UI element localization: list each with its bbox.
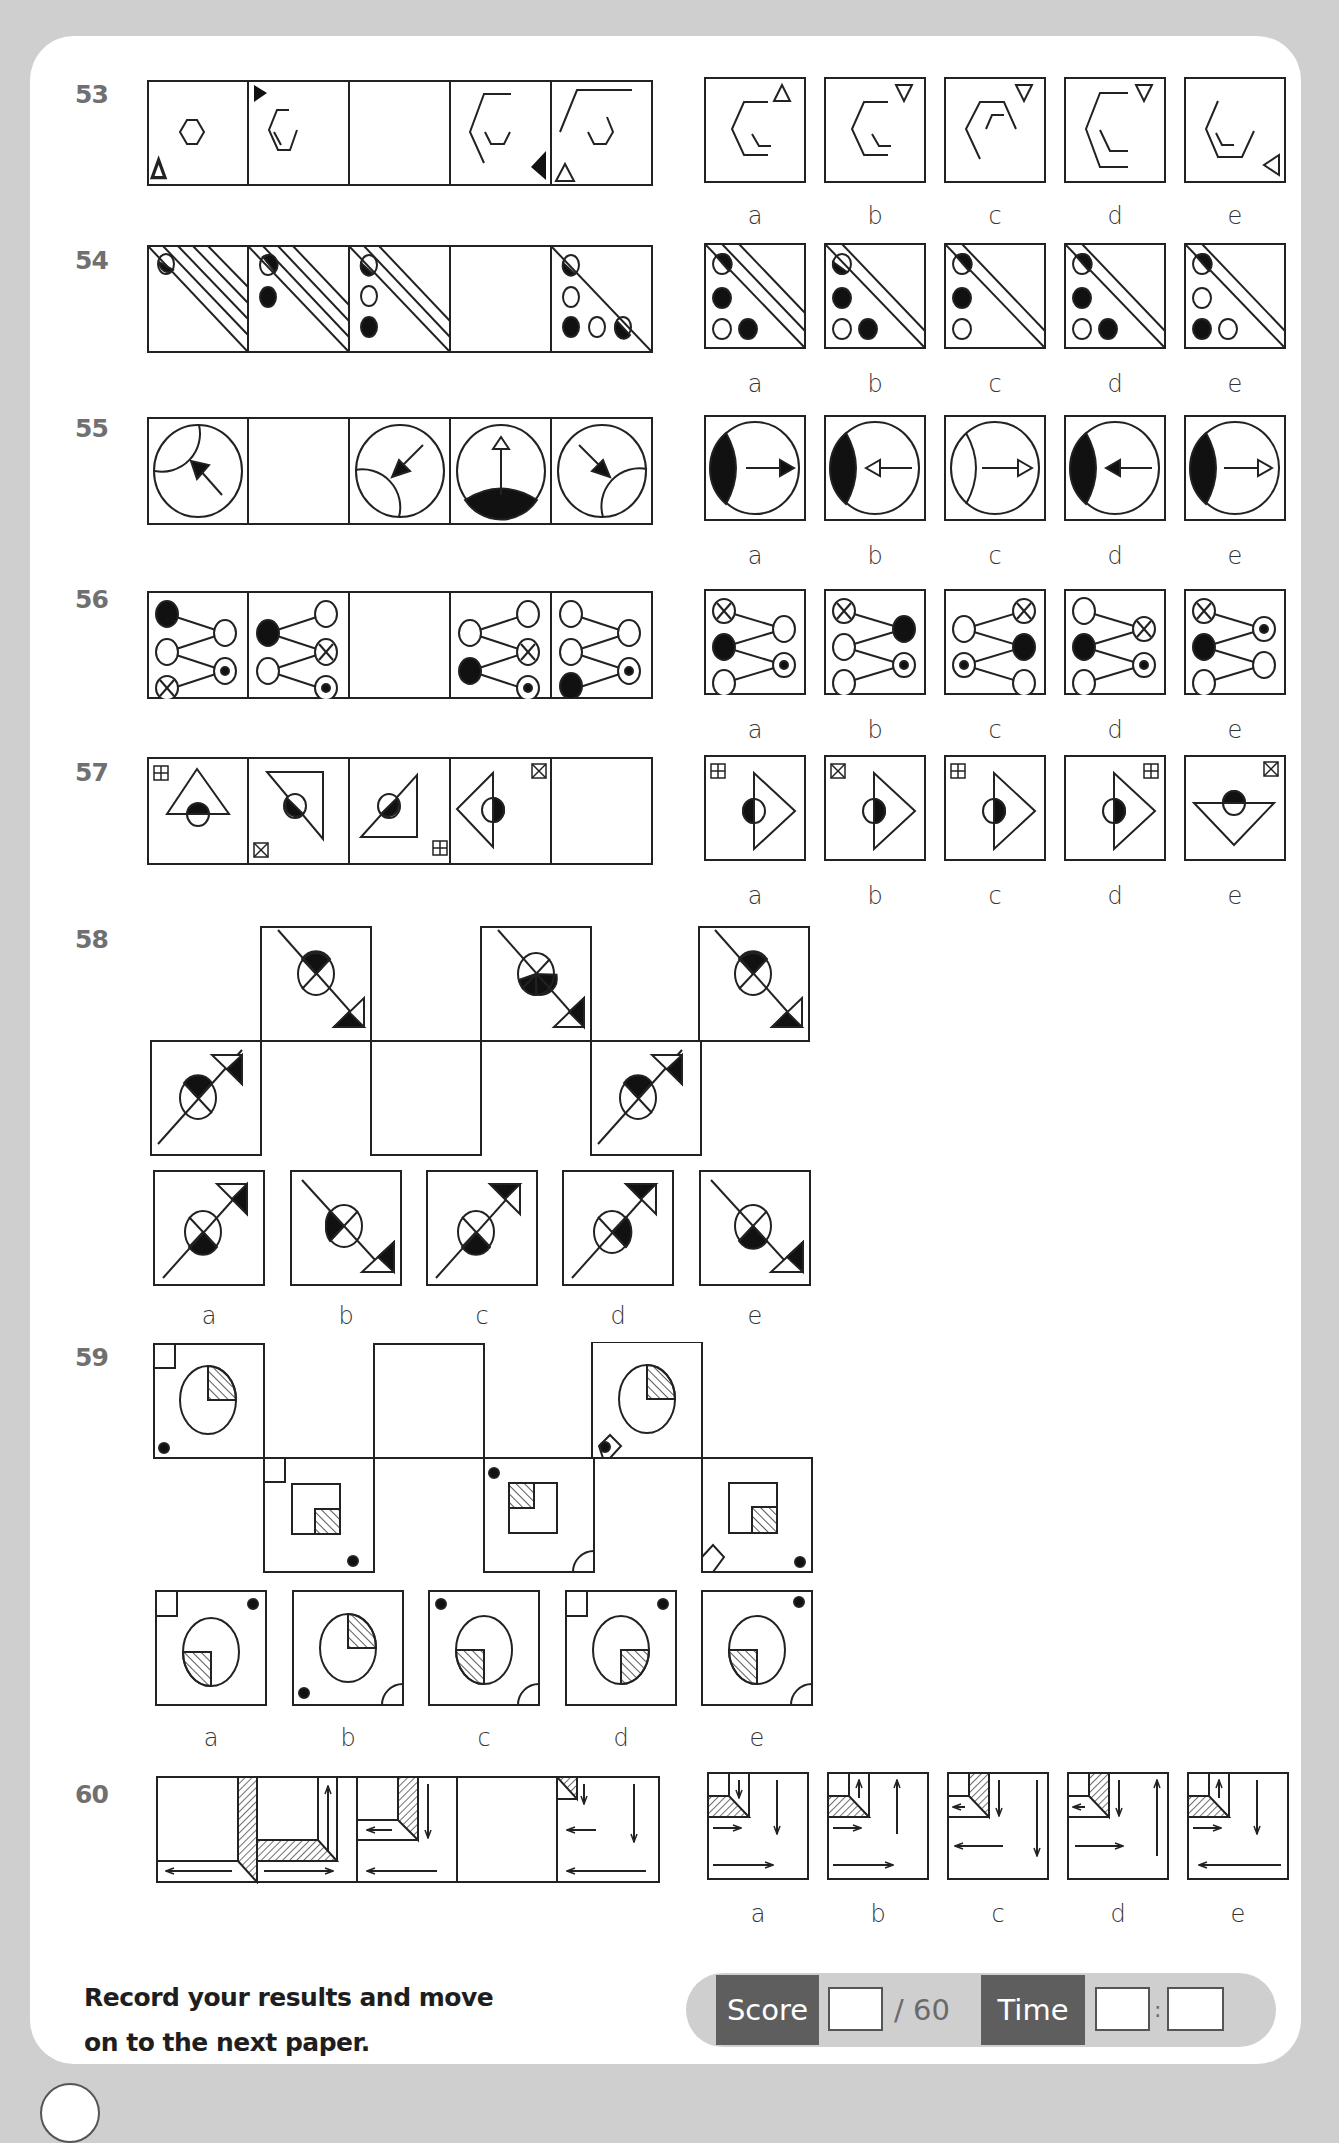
q60-label-d: d [1103,1900,1133,1928]
q58-option-b[interactable] [290,1170,402,1286]
q60-sequence [156,1774,660,1884]
q59-option-c[interactable] [428,1590,540,1706]
q55-option-d[interactable] [1064,415,1166,521]
question-number-60: 60 [75,1780,108,1809]
q56-option-e[interactable] [1184,589,1286,695]
q53-option-b[interactable] [824,77,926,183]
footer-instruction-line1: Record your results and move [84,1975,493,2020]
q58-option-e[interactable] [699,1170,811,1286]
q59-option-e[interactable] [701,1590,813,1706]
q53-label-e: e [1220,202,1250,230]
q60-option-c[interactable] [947,1772,1049,1880]
footer-instruction: Record your results and move on to the n… [84,1975,493,2065]
q53-label-c: c [980,202,1010,230]
q56-label-e: e [1220,716,1250,744]
q54-sequence [147,245,653,353]
q60-option-d[interactable] [1067,1772,1169,1880]
q57-option-e[interactable] [1184,755,1286,861]
q55-label-a: a [740,542,770,570]
page-number-badge [40,2083,100,2143]
q55-label-e: e [1220,542,1250,570]
score-input[interactable] [828,1987,883,2031]
q54-option-d[interactable] [1064,243,1166,349]
q56-option-a[interactable] [704,589,806,695]
q53-option-d[interactable] [1064,77,1166,183]
q57-label-e: e [1220,882,1250,910]
q60-label-a: a [743,1900,773,1928]
q59-label-d: d [606,1724,636,1752]
q59-option-b[interactable] [292,1590,404,1706]
q54-option-b[interactable] [824,243,926,349]
q57-option-d[interactable] [1064,755,1166,861]
q58-option-a[interactable] [153,1170,265,1286]
q60-option-e[interactable] [1187,1772,1289,1880]
q55-label-d: d [1100,542,1130,570]
q57-option-b[interactable] [824,755,926,861]
question-number-53: 53 [75,80,108,109]
time-label: Time [981,1975,1085,2045]
q56-sequence [147,591,653,699]
q53-option-a[interactable] [704,77,806,183]
q56-label-a: a [740,716,770,744]
question-number-54: 54 [75,246,108,275]
q59-option-a[interactable] [155,1590,267,1706]
q54-label-c: c [980,370,1010,398]
question-number-57: 57 [75,758,108,787]
q59-label-e: e [742,1724,772,1752]
question-number-58: 58 [75,925,108,954]
score-label: Score [716,1975,819,2045]
q56-option-d[interactable] [1064,589,1166,695]
question-number-55: 55 [75,414,108,443]
q55-label-c: c [980,542,1010,570]
q56-option-c[interactable] [944,589,1046,695]
q60-option-a[interactable] [707,1772,809,1880]
question-number-56: 56 [75,585,108,614]
q59-label-a: a [196,1724,226,1752]
time-minutes-input[interactable] [1095,1987,1150,2031]
q58-option-d[interactable] [562,1170,674,1286]
q54-option-c[interactable] [944,243,1046,349]
q55-option-a[interactable] [704,415,806,521]
q55-option-b[interactable] [824,415,926,521]
q60-option-b[interactable] [827,1772,929,1880]
q57-label-d: d [1100,882,1130,910]
q56-label-d: d [1100,716,1130,744]
q55-label-b: b [860,542,890,570]
q58-label-c: c [467,1302,497,1330]
q58-sequence [150,926,810,1158]
q58-label-d: d [603,1302,633,1330]
footer-instruction-line2: on to the next paper. [84,2020,493,2065]
q58-option-c[interactable] [426,1170,538,1286]
q54-label-d: d [1100,370,1130,398]
q53-option-c[interactable] [944,77,1046,183]
q57-option-c[interactable] [944,755,1046,861]
q56-option-b[interactable] [824,589,926,695]
q54-option-a[interactable] [704,243,806,349]
q53-label-a: a [740,202,770,230]
q53-option-e[interactable] [1184,77,1286,183]
q59-label-b: b [333,1724,363,1752]
q58-label-a: a [194,1302,224,1330]
q55-sequence [147,417,653,525]
q57-sequence [147,757,653,865]
q53-sequence [147,80,653,186]
score-total: / 60 [894,1973,950,2047]
time-seconds-input[interactable] [1167,1987,1224,2031]
q54-label-b: b [860,370,890,398]
q58-label-b: b [331,1302,361,1330]
q56-label-c: c [980,716,1010,744]
q59-option-d[interactable] [565,1590,677,1706]
q57-label-a: a [740,882,770,910]
q60-label-b: b [863,1900,893,1928]
q55-option-e[interactable] [1184,415,1286,521]
q53-label-b: b [860,202,890,230]
q60-label-e: e [1223,1900,1253,1928]
q57-option-a[interactable] [704,755,806,861]
q58-label-e: e [740,1302,770,1330]
question-number-59: 59 [75,1343,108,1372]
q60-label-c: c [983,1900,1013,1928]
q55-option-c[interactable] [944,415,1046,521]
q59-sequence [153,1342,813,1574]
q54-option-e[interactable] [1184,243,1286,349]
score-time-bar: Score / 60 Time : [686,1973,1276,2047]
